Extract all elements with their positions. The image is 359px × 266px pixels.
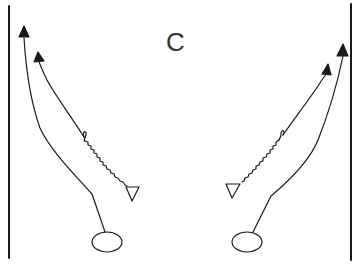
right-wavy-line — [242, 140, 279, 182]
right-loop — [279, 131, 284, 140]
play-diagram: C — [0, 0, 359, 266]
right-defender-triangle-icon — [226, 184, 240, 198]
left-inner-arrow-icon — [34, 52, 44, 62]
center-label: C — [166, 29, 185, 55]
right-outer-route — [253, 56, 343, 232]
left-outer-arrow-icon — [19, 26, 29, 37]
left-outer-route — [24, 38, 105, 232]
left-player-oval-icon — [92, 232, 122, 252]
left-defender-triangle-icon — [126, 187, 139, 201]
right-player-oval-icon — [232, 232, 262, 252]
left-inner-route — [39, 62, 84, 137]
right-outer-arrow-icon — [337, 44, 348, 56]
left-loop — [84, 132, 87, 141]
right-inner-route — [283, 74, 327, 135]
left-wavy-line — [85, 141, 127, 186]
right-inner-arrow-icon — [322, 64, 331, 75]
